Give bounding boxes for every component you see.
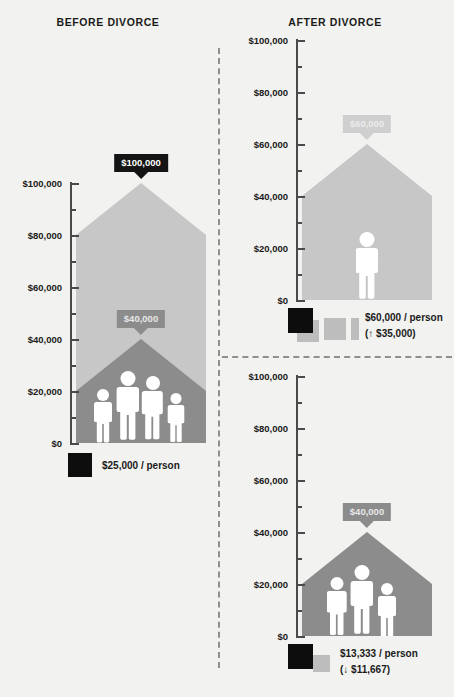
legend-swatch-ghost bbox=[324, 318, 346, 340]
y-tick-major bbox=[296, 92, 305, 94]
people-group-after-top bbox=[356, 232, 380, 300]
legend-swatch-person bbox=[288, 644, 313, 669]
y-tick-label: $40,000 bbox=[226, 191, 288, 202]
y-tick-label: $0 bbox=[226, 295, 288, 306]
y-tick-label: $0 bbox=[226, 631, 288, 642]
callout-disposable-income-before: $40,000 bbox=[117, 310, 165, 328]
y-tick-minor bbox=[296, 66, 302, 68]
y-tick-major bbox=[296, 144, 305, 146]
y-tick-label: $40,000 bbox=[0, 334, 62, 345]
y-tick-minor bbox=[70, 313, 76, 315]
callout-value: $60,000 bbox=[350, 118, 384, 129]
y-tick-minor bbox=[296, 274, 302, 276]
legend-swatch-ghost bbox=[351, 318, 359, 340]
y-tick-major bbox=[296, 376, 305, 378]
legend-change-after-top: (↑ $35,000) bbox=[365, 326, 416, 341]
y-tick-major bbox=[296, 584, 305, 586]
y-tick-label: $40,000 bbox=[226, 527, 288, 538]
y-tick-label: $80,000 bbox=[226, 423, 288, 434]
y-tick-major bbox=[70, 235, 79, 237]
people-group-after-bottom bbox=[327, 565, 403, 636]
people-group-before bbox=[94, 371, 188, 443]
callout-pointer-icon bbox=[360, 521, 374, 528]
y-tick-minor bbox=[296, 170, 302, 172]
callout-pointer-icon bbox=[134, 172, 148, 179]
y-tick-major bbox=[70, 443, 79, 445]
y-tick-label: $20,000 bbox=[226, 243, 288, 254]
y-tick-major bbox=[296, 532, 305, 534]
y-tick-label: $100,000 bbox=[0, 178, 62, 189]
person-figure bbox=[94, 389, 112, 443]
person-figure bbox=[168, 393, 185, 442]
y-tick-minor bbox=[296, 506, 302, 508]
person-figure bbox=[351, 565, 373, 634]
y-tick-major bbox=[296, 480, 305, 482]
person-figure bbox=[117, 371, 139, 440]
legend-swatch-ghost bbox=[313, 655, 330, 672]
panel-title-after-divorce: AFTER DIVORCE bbox=[216, 16, 454, 28]
y-tick-minor bbox=[296, 222, 302, 224]
y-tick-major bbox=[296, 40, 305, 42]
y-tick-minor bbox=[70, 417, 76, 419]
legend-change-after-bottom: (↓ $11,667) bbox=[340, 662, 390, 677]
person-figure bbox=[378, 583, 396, 636]
y-tick-major bbox=[70, 339, 79, 341]
callout-value: $40,000 bbox=[350, 506, 384, 517]
person-figure bbox=[356, 232, 378, 299]
legend-swatch-person bbox=[288, 308, 313, 333]
person-figure bbox=[327, 577, 347, 635]
callout-household-income-before: $100,000 bbox=[114, 154, 168, 172]
y-tick-label: $60,000 bbox=[0, 282, 62, 293]
y-tick-label: $60,000 bbox=[226, 139, 288, 150]
callout-household-income-after-bottom: $40,000 bbox=[343, 503, 391, 521]
y-tick-minor bbox=[296, 610, 302, 612]
horizontal-divider bbox=[222, 356, 452, 358]
y-tick-label: $80,000 bbox=[0, 230, 62, 241]
y-tick-major bbox=[296, 248, 305, 250]
y-tick-minor bbox=[70, 365, 76, 367]
legend-per-person-after-top: $60,000 / person bbox=[365, 310, 443, 325]
y-tick-minor bbox=[296, 454, 302, 456]
y-tick-label: $0 bbox=[0, 438, 62, 449]
y-tick-label: $100,000 bbox=[226, 371, 288, 382]
y-tick-label: $60,000 bbox=[226, 475, 288, 486]
callout-value: $40,000 bbox=[124, 313, 158, 324]
y-tick-major bbox=[296, 300, 305, 302]
y-tick-major bbox=[70, 287, 79, 289]
y-tick-minor bbox=[70, 261, 76, 263]
y-tick-major bbox=[70, 183, 79, 185]
callout-pointer-icon bbox=[360, 133, 374, 140]
y-tick-label: $20,000 bbox=[226, 579, 288, 590]
legend-per-person-after-bottom: $13,333 / person bbox=[340, 646, 418, 661]
legend-per-person-before: $25,000 / person bbox=[102, 458, 180, 473]
panel-title-before-divorce: BEFORE DIVORCE bbox=[0, 16, 216, 28]
callout-pointer-icon bbox=[134, 328, 148, 335]
y-tick-minor bbox=[296, 118, 302, 120]
y-tick-minor bbox=[296, 558, 302, 560]
y-tick-label: $20,000 bbox=[0, 386, 62, 397]
y-tick-major bbox=[296, 196, 305, 198]
y-tick-minor bbox=[296, 402, 302, 404]
vertical-divider bbox=[218, 48, 220, 668]
y-tick-label: $80,000 bbox=[226, 87, 288, 98]
callout-value: $100,000 bbox=[121, 157, 161, 168]
callout-household-income-after-top: $60,000 bbox=[343, 115, 391, 133]
y-tick-label: $100,000 bbox=[226, 35, 288, 46]
y-tick-major bbox=[70, 391, 79, 393]
y-tick-minor bbox=[70, 209, 76, 211]
y-tick-major bbox=[296, 428, 305, 430]
y-tick-major bbox=[296, 636, 305, 638]
person-figure bbox=[142, 376, 163, 439]
legend-swatch-person bbox=[68, 453, 92, 477]
